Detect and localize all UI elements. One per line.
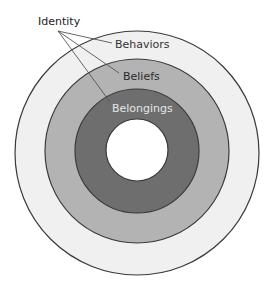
identity-diagram: Identity Behaviors Beliefs Belongings [0,0,271,294]
belongings-label: Belongings [112,102,173,115]
center-hole [106,119,168,181]
beliefs-label: Beliefs [123,70,160,83]
identity-label: Identity [38,15,81,28]
behaviors-label: Behaviors [115,38,170,51]
